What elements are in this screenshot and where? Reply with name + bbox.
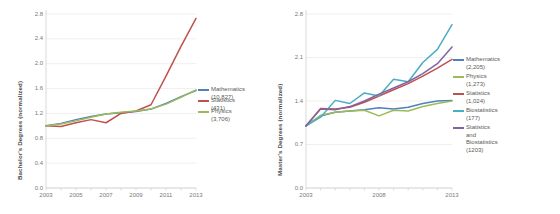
series-line <box>46 90 196 125</box>
series-line <box>46 90 196 126</box>
legend-color-swatch <box>453 76 464 78</box>
legend-item[interactable]: Mathematics (2,205) <box>453 56 500 71</box>
bachelors-chart-panel: Bachelor's Degrees (normalized) 0.00.40.… <box>0 0 280 214</box>
masters-chart-panel: Master's Degrees (normalized) 0.00.71.42… <box>280 0 560 214</box>
series-line <box>306 25 452 126</box>
chart-svg <box>280 0 560 214</box>
legend-label: Biostatistics (177) <box>466 107 498 122</box>
legend-item[interactable]: Statistics (1,024) <box>453 90 490 105</box>
legend-item[interactable]: Statistics and Biostatistics (1203) <box>453 124 498 154</box>
series-line <box>306 101 452 126</box>
legend-item[interactable]: Physics (3,706) <box>198 108 232 123</box>
legend-color-swatch <box>453 59 464 61</box>
legend-color-swatch <box>198 100 209 102</box>
legend-item[interactable]: Physics (1,273) <box>453 73 487 88</box>
legend-item[interactable]: Biostatistics (177) <box>453 107 498 122</box>
legend-color-swatch <box>453 93 464 95</box>
legend-color-swatch <box>453 127 464 129</box>
plot-area-bachelors <box>0 0 280 214</box>
legend-label: Mathematics (2,205) <box>466 56 500 71</box>
chart-svg <box>0 0 280 214</box>
legend-color-swatch <box>198 111 209 113</box>
legend-color-swatch <box>198 89 209 91</box>
plot-area-masters <box>280 0 560 214</box>
legend-label: Statistics (1,024) <box>466 90 490 105</box>
legend-color-swatch <box>453 110 464 112</box>
legend-label: Physics (3,706) <box>211 108 232 123</box>
legend-label: Physics (1,273) <box>466 73 487 88</box>
degrees-trend-figure: Bachelor's Degrees (normalized) 0.00.40.… <box>0 0 560 214</box>
legend-label: Statistics and Biostatistics (1203) <box>466 124 498 154</box>
series-line <box>46 18 196 126</box>
